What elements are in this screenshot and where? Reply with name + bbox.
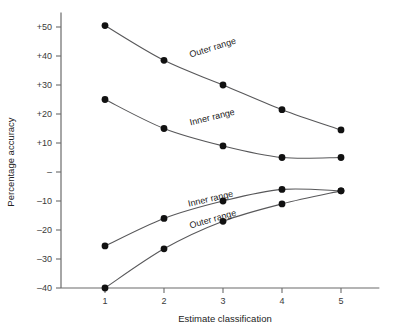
- x-tick-label: 3: [220, 296, 225, 306]
- y-tick-label: +40: [37, 51, 52, 61]
- y-tick-label: –40: [37, 283, 52, 293]
- data-point: [102, 243, 109, 250]
- data-point: [338, 187, 345, 194]
- data-point: [279, 186, 286, 193]
- x-tick-label: 1: [102, 296, 107, 306]
- data-point: [338, 127, 345, 134]
- chart-container: +50+40+30+20+10––10–20–30–40 12345 Perce…: [0, 0, 405, 329]
- y-tick-label: –10: [37, 196, 52, 206]
- y-axis-title: Percentage accuracy: [5, 117, 16, 206]
- data-point: [279, 106, 286, 113]
- data-point: [161, 215, 168, 222]
- data-point: [338, 154, 345, 161]
- data-point: [279, 154, 286, 161]
- y-tick-label: +30: [37, 80, 52, 90]
- data-point: [102, 96, 109, 103]
- data-point: [220, 143, 227, 150]
- data-point: [102, 285, 109, 292]
- y-tick-label: –20: [37, 225, 52, 235]
- y-tick-label: +20: [37, 109, 52, 119]
- x-tick-label: 2: [161, 296, 166, 306]
- data-point: [161, 57, 168, 64]
- y-tick-label: –30: [37, 254, 52, 264]
- data-point: [279, 201, 286, 208]
- y-tick-label: +10: [37, 138, 52, 148]
- percentage-accuracy-line-chart: +50+40+30+20+10––10–20–30–40 12345 Perce…: [0, 0, 405, 329]
- x-tick-label: 5: [338, 296, 343, 306]
- y-tick-label: –: [47, 167, 52, 177]
- y-tick-label: +50: [37, 22, 52, 32]
- data-point: [220, 82, 227, 89]
- x-tick-label: 4: [279, 296, 284, 306]
- data-point: [102, 22, 109, 29]
- x-axis-title: Estimate classification: [178, 313, 271, 324]
- data-point: [161, 125, 168, 132]
- data-point: [161, 245, 168, 252]
